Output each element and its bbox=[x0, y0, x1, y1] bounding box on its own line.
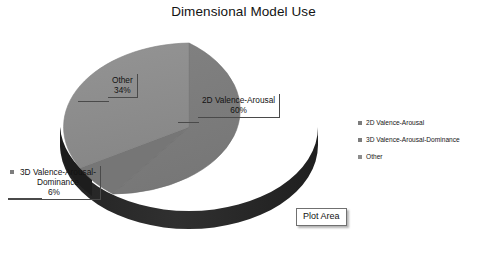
pie-chart: Dimensional Model Use bbox=[0, 0, 487, 254]
legend-label-other: Other bbox=[366, 153, 383, 161]
plot-area-callout: Plot Area bbox=[296, 208, 347, 226]
data-label-2d-value: 60% bbox=[202, 105, 275, 115]
data-label-3d-name-line1: 3D Valence-Arousal- bbox=[12, 167, 96, 177]
legend-item-3d-valence-arousal-dominance[interactable]: 3D Valence-Arousal-Dominance bbox=[358, 136, 486, 144]
data-label-other-name: Other bbox=[112, 75, 133, 85]
data-label-3d-value: 6% bbox=[12, 187, 96, 197]
legend-label-2d-valence-arousal: 2D Valence-Arousal bbox=[366, 119, 424, 127]
leader-line-2d-valence-arousal bbox=[178, 122, 199, 123]
data-label-other-value: 34% bbox=[112, 85, 133, 95]
data-label-3d-valence-arousal-dominance[interactable]: 3D Valence-Arousal- Dominance 6% bbox=[8, 166, 101, 200]
legend-label-3d-valence-arousal-dominance: 3D Valence-Arousal-Dominance bbox=[366, 136, 460, 144]
data-label-3d-name-line2: Dominance bbox=[12, 177, 96, 187]
chart-title: Dimensional Model Use bbox=[0, 4, 487, 19]
chart-legend: 2D Valence-Arousal 3D Valence-Arousal-Do… bbox=[358, 119, 486, 170]
legend-item-other[interactable]: Other bbox=[358, 153, 486, 161]
data-label-marker-icon bbox=[10, 170, 14, 174]
legend-swatch-icon bbox=[358, 138, 362, 142]
data-label-2d-valence-arousal[interactable]: 2D Valence-Arousal 60% bbox=[198, 94, 280, 118]
data-label-other[interactable]: Other 34% bbox=[108, 74, 138, 98]
data-label-2d-name: 2D Valence-Arousal bbox=[202, 95, 275, 105]
legend-swatch-icon bbox=[358, 155, 362, 159]
legend-swatch-icon bbox=[358, 121, 362, 125]
leader-line-other bbox=[78, 101, 109, 102]
legend-item-2d-valence-arousal[interactable]: 2D Valence-Arousal bbox=[358, 119, 486, 127]
